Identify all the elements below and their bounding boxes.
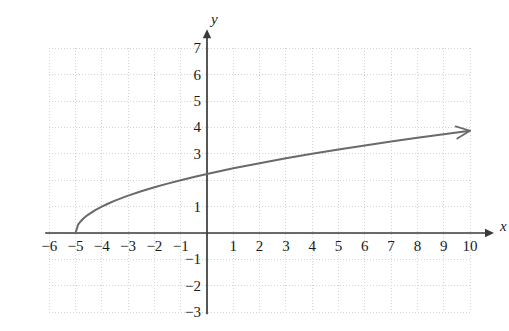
x-tick-label: 1	[219, 239, 247, 254]
x-tick-label: 6	[351, 239, 379, 254]
x-tick-label: −6	[35, 239, 63, 254]
x-tick-label: −2	[140, 239, 168, 254]
y-tick-label: −2	[173, 279, 201, 294]
x-tick-label: −5	[62, 239, 90, 254]
grid-layer	[49, 48, 470, 312]
x-tick-label: −3	[114, 239, 142, 254]
x-tick-label: 2	[246, 239, 274, 254]
x-tick-label: 7	[377, 239, 405, 254]
axes-layer	[45, 29, 494, 314]
curve-layer	[76, 126, 471, 233]
y-tick-label: −3	[173, 305, 201, 320]
x-tick-label: 4	[298, 239, 326, 254]
y-tick-label: 5	[173, 94, 201, 109]
y-tick-label: 6	[173, 68, 201, 83]
y-tick-label: 4	[173, 120, 201, 135]
y-tick-label: −1	[173, 252, 201, 267]
y-tick-label: 7	[173, 41, 201, 56]
graph-figure: −6−5−4−3−2−112345678910765431−1−2−3 x y	[0, 0, 509, 331]
x-tick-label: 8	[403, 239, 431, 254]
x-tick-label: 3	[272, 239, 300, 254]
x-tick-label: 5	[325, 239, 353, 254]
x-tick-label: −4	[88, 239, 116, 254]
x-tick-label: 10	[456, 239, 484, 254]
y-tick-label: 1	[173, 200, 201, 215]
plot-canvas	[0, 0, 509, 331]
x-tick-label: 9	[430, 239, 458, 254]
x-axis-label: x	[500, 219, 507, 234]
y-tick-label: 3	[173, 147, 201, 162]
y-axis-label: y	[211, 12, 218, 27]
